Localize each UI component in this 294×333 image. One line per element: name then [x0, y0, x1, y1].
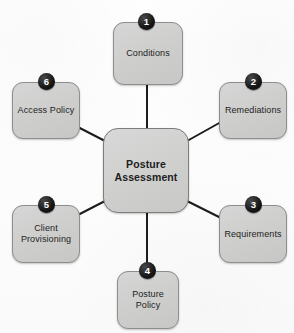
- hub-node-posture-assessment[interactable]: Posture Assessment: [103, 128, 189, 213]
- posture-assessment-diagram: Posture AssessmentConditions1Remediation…: [0, 0, 294, 333]
- node-requirements[interactable]: Requirements: [219, 205, 287, 263]
- badge-requirements: 3: [245, 196, 262, 213]
- edge-hub-requirements: [187, 201, 221, 218]
- node-posture-policy[interactable]: Posture Policy: [117, 271, 179, 329]
- badge-conditions: 1: [138, 13, 155, 30]
- badge-client-provisioning: 5: [38, 196, 55, 213]
- badge-remediations: 2: [245, 73, 262, 90]
- node-label-posture-policy: Posture Policy: [129, 289, 167, 311]
- badge-posture-policy: 4: [139, 262, 156, 279]
- node-client-provisioning[interactable]: Client Provisioning: [12, 205, 80, 263]
- hub-node-label: Posture Assessment: [112, 158, 181, 184]
- node-access-policy[interactable]: Access Policy: [12, 82, 80, 139]
- node-label-access-policy: Access Policy: [15, 105, 78, 116]
- node-conditions[interactable]: Conditions: [113, 22, 183, 85]
- node-label-remediations: Remediations: [222, 105, 284, 116]
- node-label-requirements: Requirements: [221, 229, 284, 240]
- node-label-client-provisioning: Client Provisioning: [18, 223, 74, 245]
- node-label-conditions: Conditions: [123, 48, 173, 59]
- edge-hub-remediations: [187, 122, 221, 141]
- node-remediations[interactable]: Remediations: [219, 82, 287, 139]
- badge-access-policy: 6: [38, 73, 55, 90]
